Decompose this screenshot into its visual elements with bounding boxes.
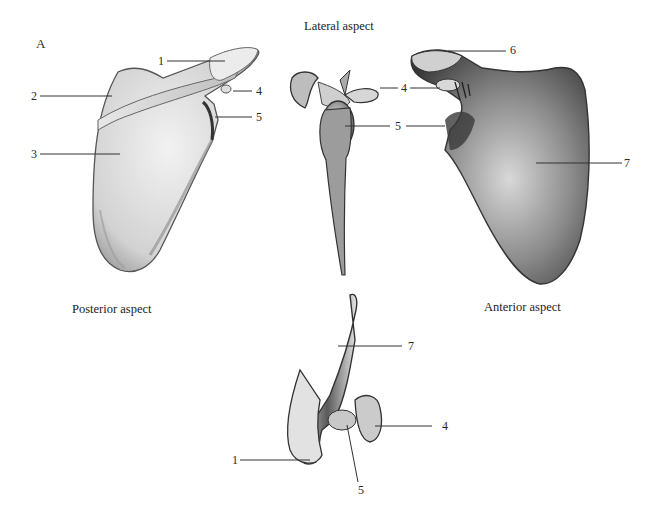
label-posterior-2: 2 — [31, 90, 37, 102]
label-superior-5: 5 — [358, 484, 364, 496]
label-superior-4: 4 — [442, 420, 448, 432]
label-lateral-4: 4 — [401, 82, 407, 94]
caption-anterior-aspect: Anterior aspect — [484, 300, 561, 314]
figure-letter: A — [36, 36, 45, 52]
lateral-scapula — [291, 70, 379, 275]
label-lateral-5: 5 — [395, 120, 401, 132]
label-anterior-6: 6 — [510, 44, 516, 56]
caption-posterior-aspect: Posterior aspect — [72, 302, 152, 316]
label-posterior-5: 5 — [256, 111, 262, 123]
label-posterior-4: 4 — [256, 85, 262, 97]
anterior-scapula — [411, 50, 589, 284]
label-superior-7: 7 — [408, 340, 414, 352]
label-superior-1: 1 — [232, 454, 238, 466]
scapula-illustration — [0, 0, 662, 520]
posterior-scapula — [93, 48, 259, 272]
label-anterior-7: 7 — [624, 157, 630, 169]
label-posterior-3: 3 — [31, 148, 37, 160]
label-posterior-1: 1 — [158, 55, 164, 67]
caption-lateral-aspect: Lateral aspect — [304, 19, 374, 33]
superior-scapula — [288, 294, 382, 464]
